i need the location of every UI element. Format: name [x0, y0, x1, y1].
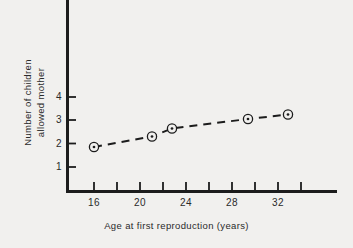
x-tick-label-16: 16 — [82, 197, 106, 208]
data-point — [89, 142, 98, 151]
y-axis-title: Number of children allowed mother — [22, 40, 47, 166]
data-point — [283, 110, 292, 119]
data-point — [147, 132, 156, 141]
data-point-markers — [89, 110, 292, 152]
x-tick-label-24: 24 — [174, 197, 198, 208]
x-tick-label-32: 32 — [266, 197, 290, 208]
x-axis-title: Age at first reproduction (years) — [0, 220, 353, 231]
y-axis-title-line-1: Number of children — [22, 59, 33, 146]
x-tick-label-20: 20 — [128, 197, 152, 208]
chart-figure: 4 3 2 1 16 20 24 28 32 Age at first repr… — [0, 0, 353, 248]
data-point — [167, 124, 176, 133]
data-point — [243, 114, 252, 123]
y-axis-title-line-2: allowed mother — [34, 68, 45, 137]
y-axis-title-container: Number of children allowed mother — [13, 28, 53, 168]
x-axis-ticks — [94, 182, 301, 190]
y-axis-ticks — [68, 97, 76, 167]
data-line-series-1 — [94, 115, 288, 148]
x-tick-label-28: 28 — [220, 197, 244, 208]
